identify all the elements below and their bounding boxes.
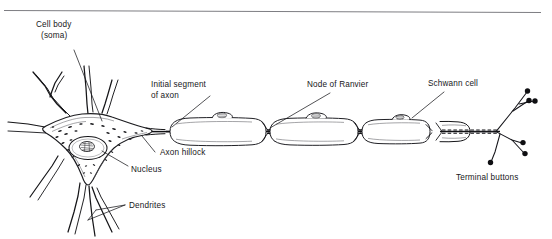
leader-nucleus [102,151,128,166]
leader-schwann-cell [412,92,444,118]
neuron-diagram-canvas: Cell body (soma) Initial segment of axon… [0,0,552,239]
myelin-segment [270,113,358,145]
terminal-button [525,88,530,93]
top-divider-rule [4,11,541,13]
neuron-diagram-figure: Cell body (soma) Initial segment of axon… [0,0,552,239]
label-schwann-cell: Schwann cell [428,79,478,88]
myelin-segment [170,112,266,145]
label-node-of-ranvier: Node of Ranvier [307,80,369,89]
label-nucleus: Nucleus [131,165,162,174]
nucleolus [80,142,95,152]
myelinated-axon [166,112,500,145]
myelin-segment [362,115,430,144]
label-cell-body-line2: (soma) [41,31,67,40]
label-axon-hillock: Axon hillock [160,148,206,157]
terminal-buttons-arbor [470,88,538,165]
terminal-button [522,151,527,156]
label-dendrites: Dendrites [129,201,165,210]
label-terminal-buttons: Terminal buttons [456,173,518,182]
nucleus [69,137,107,160]
label-initial-segment-line1: Initial segment [151,80,207,89]
label-cell-body-line1: Cell body [36,20,72,29]
terminal-button [526,98,531,103]
terminal-button [532,98,537,103]
label-initial-segment-line2: of axon [151,91,179,100]
leader-axon-hillock [142,136,155,152]
terminal-button [488,160,493,165]
terminal-button [520,140,525,145]
